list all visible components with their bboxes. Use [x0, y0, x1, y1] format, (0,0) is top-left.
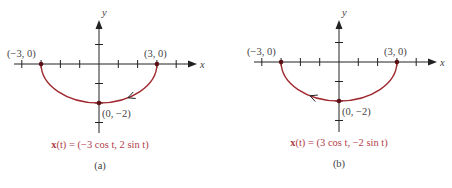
y-axis-label: y: [341, 7, 347, 18]
point-label: (0, −2): [102, 108, 131, 120]
x-axis-label: x: [439, 57, 445, 68]
point-marker: [279, 60, 284, 65]
x-axis-arrow-icon: [188, 61, 197, 68]
formula: x(t) = (3 cos t, −2 sin t): [290, 137, 388, 149]
point-label: (3, 0): [384, 46, 407, 58]
figure: xy(−3, 0)(3, 0)(0, −2)x(t) = (−3 cos t, …: [0, 0, 452, 188]
y-axis-arrow-icon: [336, 20, 343, 29]
y-axis-label: y: [101, 7, 107, 18]
point-label: (3, 0): [144, 48, 167, 60]
point-marker: [395, 60, 400, 65]
y-axis-arrow-icon: [96, 20, 103, 29]
point-label: (−3, 0): [7, 48, 36, 60]
x-axis-label: x: [199, 59, 205, 70]
point-marker: [97, 101, 102, 106]
point-marker: [155, 62, 160, 67]
caption: (b): [333, 158, 346, 170]
panel-b: xy(−3, 0)(3, 0)(0, −2)x(t) = (3 cos t, −…: [247, 7, 445, 170]
point-label: (0, −2): [342, 106, 371, 118]
caption: (a): [94, 160, 106, 172]
panel-a: xy(−3, 0)(3, 0)(0, −2)x(t) = (−3 cos t, …: [7, 7, 205, 172]
x-axis-arrow-icon: [428, 59, 437, 66]
formula: x(t) = (−3 cos t, 2 sin t): [51, 139, 149, 151]
point-label: (−3, 0): [247, 46, 276, 58]
point-marker: [39, 62, 44, 67]
point-marker: [337, 99, 342, 104]
